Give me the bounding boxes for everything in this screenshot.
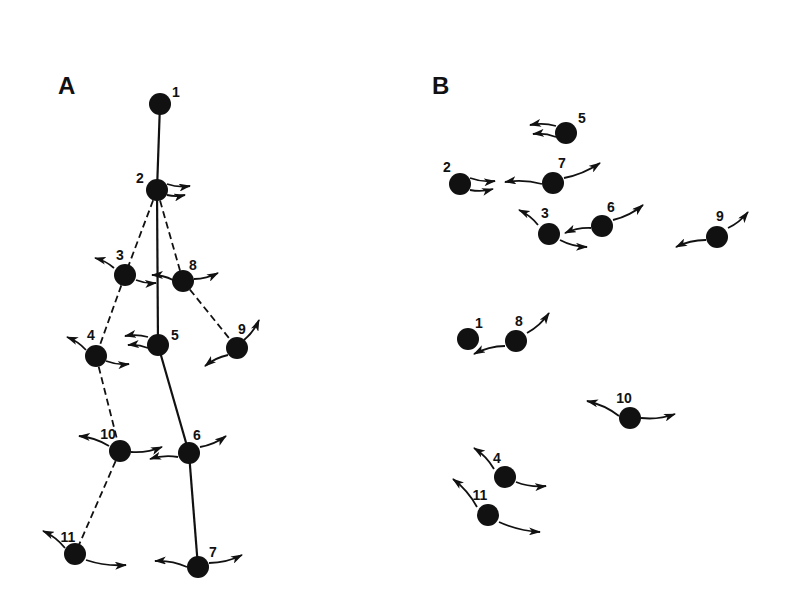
edge-a-2-3: [125, 190, 157, 275]
node-a-1: [149, 93, 171, 115]
node-label: 1: [172, 85, 180, 99]
motion-arrow-icon: [499, 522, 540, 532]
motion-arrow-icon: [136, 280, 156, 283]
node-b-6: [591, 215, 613, 237]
node-a-4: [85, 345, 107, 367]
motion-arrow-icon: [67, 337, 86, 350]
motion-arrow-icon: [205, 355, 228, 366]
node-label: 4: [87, 328, 95, 342]
node-a-10: [109, 440, 131, 462]
node-b-11: [477, 504, 499, 526]
panel-label-b: B: [432, 72, 449, 100]
motion-arrow-icon: [587, 401, 619, 416]
edge-a-2-5: [157, 190, 158, 345]
node-a-11: [64, 543, 86, 565]
panel-label-a: A: [58, 72, 75, 100]
motion-arrow-icon: [564, 163, 600, 178]
edge-a-5-6: [158, 345, 189, 453]
motion-arrow-icon: [167, 184, 190, 187]
motion-arrow-icon: [152, 275, 173, 280]
motion-arrow-icon: [641, 414, 675, 418]
node-label: 2: [443, 160, 451, 174]
node-label: 3: [541, 206, 549, 220]
motion-arrow-icon: [728, 212, 748, 228]
motion-arrow-icon: [128, 345, 148, 348]
edge-a-2-8: [157, 190, 183, 281]
motion-arrow-icon: [474, 346, 505, 354]
node-label: 6: [193, 428, 201, 442]
node-label: 2: [136, 171, 144, 185]
node-label: 1: [475, 316, 483, 330]
motion-arrow-icon: [155, 561, 187, 567]
motion-arrow-icon: [470, 189, 493, 191]
node-label: 11: [473, 488, 488, 502]
motion-arrow-icon: [516, 482, 546, 486]
node-label: 10: [616, 391, 632, 405]
motion-arrow-icon: [560, 240, 587, 247]
node-label: 4: [493, 451, 501, 465]
motion-arrow-icon: [533, 134, 556, 137]
motion-arrow-icon: [150, 456, 178, 459]
node-label: 6: [607, 200, 615, 214]
node-b-9: [706, 226, 728, 248]
node-b-3: [538, 223, 560, 245]
node-a-6: [178, 442, 200, 464]
node-a-7: [187, 556, 209, 578]
motion-arrow-icon: [194, 273, 218, 279]
node-b-1: [457, 328, 479, 350]
motion-arrow-icon: [527, 313, 549, 333]
node-label: 10: [100, 427, 116, 441]
edge-a-1-2: [157, 104, 160, 190]
node-label: 9: [716, 209, 724, 223]
motion-arrow-icon: [244, 320, 259, 340]
motion-arrow-icon: [474, 448, 494, 469]
diagram-canvas: [0, 0, 788, 601]
node-label: 7: [558, 156, 566, 170]
motion-arrow-icon: [470, 178, 495, 181]
node-label: 5: [578, 111, 586, 125]
motion-arrow-icon: [86, 560, 126, 565]
motion-arrow-icon: [167, 195, 185, 196]
motion-arrow-icon: [530, 124, 556, 126]
node-a-5: [147, 334, 169, 356]
node-label: 11: [61, 530, 76, 544]
edge-a-8-9: [183, 281, 237, 348]
edge-a-10-11: [75, 451, 120, 554]
node-a-2: [146, 179, 168, 201]
motion-arrow-icon: [613, 205, 643, 220]
motion-arrow-icon: [565, 228, 591, 233]
edge-a-6-7: [189, 453, 198, 567]
node-label: 7: [209, 545, 217, 559]
node-label: 8: [515, 314, 523, 328]
node-label: 9: [238, 322, 246, 336]
motion-arrow-icon: [200, 436, 226, 447]
nodes-layer: [64, 93, 728, 578]
node-a-8: [172, 270, 194, 292]
motion-arrow-icon: [519, 210, 538, 225]
node-a-9: [226, 337, 248, 359]
node-b-4: [494, 466, 516, 488]
figure: A1238459106117B5273691810411: [0, 0, 788, 601]
node-b-7: [542, 172, 564, 194]
motion-arrow-icon: [106, 361, 129, 364]
motion-arrow-icon: [131, 447, 162, 452]
motion-arrow-icon: [125, 335, 148, 337]
edge-a-3-4: [96, 275, 125, 356]
node-b-2: [449, 173, 471, 195]
node-label: 3: [116, 248, 124, 262]
node-b-5: [555, 122, 577, 144]
motion-arrow-icon: [95, 258, 114, 268]
node-label: 5: [171, 328, 179, 342]
node-b-10: [619, 407, 641, 429]
motion-arrow-icon: [676, 240, 706, 247]
node-a-3: [114, 264, 136, 286]
motion-arrow-icon: [505, 181, 542, 184]
node-label: 8: [189, 258, 197, 272]
node-b-8: [505, 330, 527, 352]
